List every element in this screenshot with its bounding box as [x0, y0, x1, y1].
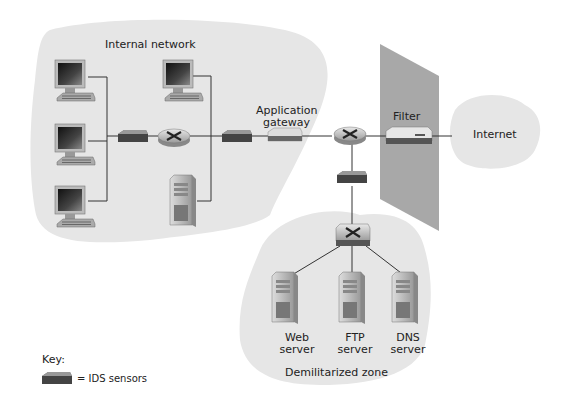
filter-label: Filter	[393, 110, 420, 123]
internal-server	[170, 175, 196, 227]
key-ids-label: = IDS sensors	[77, 373, 147, 384]
dmz-label: Demilitarized zone	[285, 366, 388, 379]
ftp-server	[339, 272, 365, 324]
ids-sensor-gateway	[222, 130, 252, 142]
internal-router	[158, 129, 190, 147]
internet-label: Internet	[473, 128, 517, 141]
key-title: Key:	[42, 353, 65, 366]
dns-server-label-2: server	[389, 343, 427, 356]
internal-network-label: Internal network	[105, 38, 196, 51]
application-gateway	[268, 128, 302, 141]
app-gateway-label-2: gateway	[263, 116, 310, 129]
ftp-server-label-2: server	[336, 343, 374, 356]
main-router	[334, 127, 366, 145]
dns-server	[392, 272, 418, 324]
ids-sensor-internal	[118, 130, 148, 142]
dmz-switch	[336, 224, 370, 246]
ids-sensor-dmz	[337, 171, 367, 183]
web-server	[272, 272, 298, 324]
web-server-label-2: server	[278, 343, 316, 356]
filter-device	[386, 127, 432, 144]
key-ids-sensor-icon	[42, 372, 72, 384]
